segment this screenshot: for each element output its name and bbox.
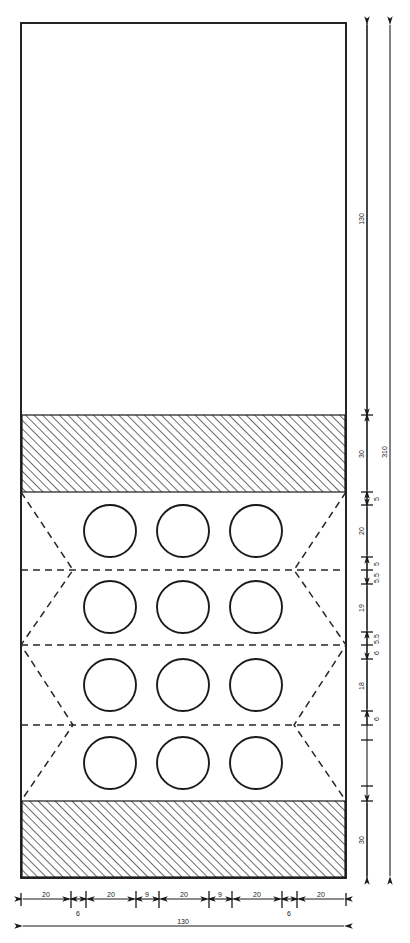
perforation-circle <box>84 737 136 789</box>
dim-label-h-9-a: 9 <box>145 891 149 898</box>
dim-label-55-a: 5.5 <box>373 573 380 583</box>
perforation-circle <box>157 505 209 557</box>
perforation-circle <box>157 581 209 633</box>
dim-label-18: 18 <box>358 682 365 690</box>
dim-label-55-b: 5.5 <box>373 634 380 644</box>
perforation-circle <box>230 737 282 789</box>
dim-label-130-width: 130 <box>177 918 189 925</box>
perforation-circle <box>84 581 136 633</box>
perforation-circle <box>230 659 282 711</box>
vertical-dimension-labels: 130 30 5 20 5 5.5 19 5.5 6 18 6 30 <box>358 213 380 844</box>
drawing-canvas: 130 30 5 20 5 5.5 19 5.5 6 18 6 30 310 <box>0 0 410 943</box>
dim-label-30-lower: 30 <box>358 836 365 844</box>
dim-label-h-9-b: 9 <box>218 891 222 898</box>
dim-label-h-20-e: 20 <box>317 891 325 898</box>
dim-label-310: 310 <box>381 446 388 458</box>
dim-label-h-6-a: 6 <box>76 910 80 917</box>
dim-label-h-20-a: 20 <box>42 891 50 898</box>
dim-label-h-20-c: 20 <box>180 891 188 898</box>
dim-label-20-a: 20 <box>358 527 365 535</box>
dim-label-30-upper: 30 <box>358 450 365 458</box>
dim-label-19: 19 <box>358 604 365 612</box>
perforation-circle <box>157 737 209 789</box>
perforation-circle <box>230 505 282 557</box>
upper-hatched-band <box>22 415 345 492</box>
dim-label-h-6-b: 6 <box>287 910 291 917</box>
dim-label-5-a: 5 <box>373 497 380 501</box>
technical-drawing: 130 30 5 20 5 5.5 19 5.5 6 18 6 30 310 <box>0 0 410 943</box>
dim-label-h-20-b: 20 <box>107 891 115 898</box>
dim-label-h-20-d: 20 <box>253 891 261 898</box>
dim-label-6-b: 6 <box>373 717 380 721</box>
perforation-circle <box>84 505 136 557</box>
dim-label-130-top: 130 <box>358 213 365 225</box>
perforation-circle <box>157 659 209 711</box>
perforation-circle <box>84 659 136 711</box>
perforation-circle <box>230 581 282 633</box>
dim-label-6-a: 6 <box>373 651 380 655</box>
lower-hatched-band <box>22 801 345 877</box>
dim-label-5-b: 5 <box>373 562 380 566</box>
